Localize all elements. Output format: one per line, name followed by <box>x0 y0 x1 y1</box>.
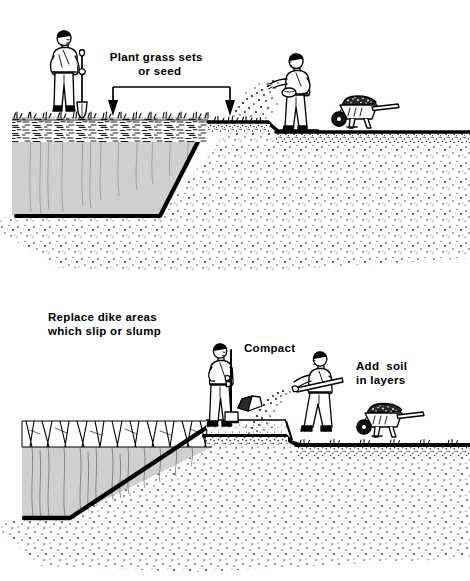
worker-with-tamper <box>207 344 238 426</box>
add-soil-label-line2: in layers <box>356 374 405 386</box>
panel-replace-dike: Replace dike areas which slip or slump C… <box>0 290 470 581</box>
lower-ground-stipple <box>296 447 470 456</box>
compact-label-line1: Compact <box>244 342 295 354</box>
panel-plant-grass: Plant grass sets or seed <box>0 0 470 290</box>
add-soil-label-line1: Add soil <box>356 360 407 372</box>
crest-stipple-band <box>208 124 270 132</box>
plant-grass-label-line2: or seed <box>138 65 181 77</box>
plant-grass-label-line1: Plant grass sets <box>110 51 203 63</box>
wheelbarrow-loaded <box>332 96 399 128</box>
terrace-stipple-band <box>206 437 288 444</box>
seed-spray <box>233 80 278 119</box>
bracket-arrow-left <box>108 100 118 116</box>
bracket-arrow-right <box>225 100 235 116</box>
dike-repair-figure: Plant grass sets or seed <box>0 0 470 581</box>
lower-ground-stipple <box>276 134 470 143</box>
worker-shoveling-soil <box>238 352 343 431</box>
wheelbarrow-loaded <box>357 404 424 438</box>
replace-dike-label-line1: Replace dike areas <box>48 311 157 323</box>
seeding-bracket <box>113 87 230 101</box>
grass-sod-layer <box>12 118 208 142</box>
replace-dike-label: Replace dike areas which slip or slump <box>0 290 188 337</box>
worker-with-spade <box>51 31 87 118</box>
replace-dike-label-line2: which slip or slump <box>47 325 161 337</box>
worker-broadcasting-seed <box>267 54 310 131</box>
plant-grass-label: Plant grass sets or seed <box>0 0 234 77</box>
